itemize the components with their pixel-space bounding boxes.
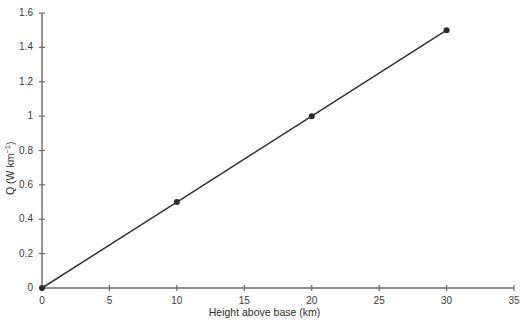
data-series-line xyxy=(42,30,447,288)
y-axis-tick-label: 0 xyxy=(0,282,33,293)
y-axis-tick-label: 1.2 xyxy=(0,76,33,87)
x-axis-tick-label: 30 xyxy=(422,295,472,306)
y-axis-tick-label: 0.4 xyxy=(0,213,33,224)
y-axis-label-tail: ) xyxy=(4,142,16,146)
data-point-marker xyxy=(444,27,450,33)
y-axis-label-main: Q (W km xyxy=(4,154,16,195)
x-axis-label: Height above base (km) xyxy=(0,306,529,318)
x-axis-tick-label: 20 xyxy=(287,295,337,306)
data-point-marker xyxy=(174,199,180,205)
x-axis-tick-label: 35 xyxy=(489,295,529,306)
x-axis-tick-label: 0 xyxy=(17,295,67,306)
y-axis-label: Q (W km−1) xyxy=(4,142,16,195)
x-axis-tick-label: 10 xyxy=(152,295,202,306)
y-axis-label-exponent: −1 xyxy=(3,145,12,154)
y-axis-tick-label: 1 xyxy=(0,110,33,121)
x-axis-tick-label: 15 xyxy=(219,295,269,306)
chart-figure: 00.20.40.60.811.21.41.6 05101520253035 H… xyxy=(0,0,529,331)
y-axis-tick-label: 1.4 xyxy=(0,41,33,52)
data-point-marker xyxy=(39,285,45,291)
x-axis-tick-label: 5 xyxy=(84,295,134,306)
x-axis-tick-label: 25 xyxy=(354,295,404,306)
plot-area xyxy=(0,0,529,331)
data-point-marker xyxy=(309,113,315,119)
y-axis-tick-label: 1.6 xyxy=(0,7,33,18)
y-axis-tick-label: 0.2 xyxy=(0,248,33,259)
